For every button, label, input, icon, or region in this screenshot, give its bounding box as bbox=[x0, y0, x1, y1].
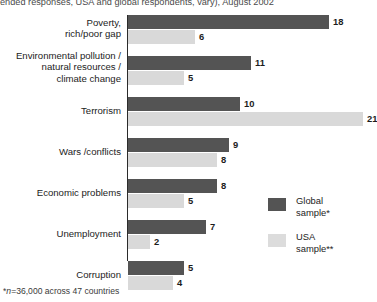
category-label-line1: Corruption bbox=[76, 269, 121, 280]
bar-row-usa: 6 bbox=[128, 30, 370, 44]
bar-row-usa: 5 bbox=[128, 71, 370, 85]
category-label-line2: rich/poor gap bbox=[65, 28, 121, 39]
chart-title: ended responses, USA and global responde… bbox=[0, 0, 370, 8]
category-label-line1: Unemployment bbox=[56, 228, 121, 239]
bar-value-global-corruption: 5 bbox=[188, 262, 193, 274]
bar-global-corruption[interactable] bbox=[128, 261, 184, 275]
bar-value-usa-environment: 5 bbox=[188, 72, 193, 84]
category-label-line1: Environmental pollution / bbox=[16, 50, 121, 61]
legend-label-global-line1: Global bbox=[296, 195, 323, 206]
bar-group-terrorism: Terrorism 10 21 bbox=[0, 97, 370, 129]
bar-row-usa: 4 bbox=[128, 276, 370, 290]
bar-value-usa-unemployment: 2 bbox=[154, 236, 159, 248]
category-label-poverty: Poverty, rich/poor gap bbox=[0, 17, 121, 40]
bar-row-global: 9 bbox=[128, 138, 370, 152]
category-label-line3: climate change bbox=[56, 73, 121, 84]
bar-global-economy[interactable] bbox=[128, 179, 217, 193]
category-label-terrorism: Terrorism bbox=[0, 105, 121, 116]
bar-global-poverty[interactable] bbox=[128, 15, 329, 29]
legend-item-global[interactable]: Global sample* bbox=[268, 196, 368, 224]
legend-label-global-line2: sample* bbox=[296, 207, 330, 218]
bar-row-global: 8 bbox=[128, 179, 370, 193]
bar-row-global: 11 bbox=[128, 56, 370, 70]
category-label-wars: Wars /conflicts bbox=[0, 146, 121, 157]
bar-value-global-terrorism: 10 bbox=[244, 98, 254, 110]
bar-value-global-poverty: 18 bbox=[333, 16, 343, 28]
bar-group-poverty: Poverty, rich/poor gap 18 6 bbox=[0, 15, 370, 47]
bar-usa-poverty[interactable] bbox=[128, 30, 195, 44]
bar-global-unemployment[interactable] bbox=[128, 220, 206, 234]
bar-value-global-wars: 9 bbox=[233, 139, 238, 151]
bar-global-terrorism[interactable] bbox=[128, 97, 240, 111]
bars-poverty: 18 6 bbox=[128, 15, 370, 45]
bar-row-usa: 8 bbox=[128, 153, 370, 167]
bar-usa-environment[interactable] bbox=[128, 71, 184, 85]
bar-usa-corruption[interactable] bbox=[128, 276, 173, 290]
chart-footnote: *n=36,000 across 47 countries bbox=[3, 286, 119, 297]
category-label-economy: Economic problems bbox=[0, 187, 121, 198]
bar-usa-unemployment[interactable] bbox=[128, 235, 150, 249]
legend-label-usa-line2: sample** bbox=[296, 243, 334, 254]
bar-usa-economy[interactable] bbox=[128, 194, 184, 208]
bars-environment: 11 5 bbox=[128, 56, 370, 86]
legend-swatch-global-icon bbox=[268, 198, 286, 211]
bars-wars: 9 8 bbox=[128, 138, 370, 168]
bar-row-usa: 21 bbox=[128, 112, 370, 126]
bar-value-usa-economy: 5 bbox=[188, 195, 193, 207]
bar-value-usa-corruption: 4 bbox=[177, 277, 182, 289]
category-label-line1: Economic problems bbox=[37, 187, 121, 198]
bar-value-global-economy: 8 bbox=[221, 180, 226, 192]
legend-label-usa: USA sample** bbox=[296, 231, 366, 254]
legend-item-usa[interactable]: USA sample** bbox=[268, 232, 368, 260]
bar-value-usa-poverty: 6 bbox=[199, 31, 204, 43]
bar-usa-wars[interactable] bbox=[128, 153, 217, 167]
category-label-corruption: Corruption bbox=[0, 269, 121, 280]
category-label-environment: Environmental pollution / natural resour… bbox=[0, 50, 121, 84]
category-label-line1: Terrorism bbox=[81, 105, 121, 116]
category-label-line2: natural resources / bbox=[42, 61, 121, 72]
bar-value-usa-wars: 8 bbox=[221, 154, 226, 166]
bar-global-wars[interactable] bbox=[128, 138, 229, 152]
footnote-rest: =36,000 across 47 countries bbox=[11, 286, 119, 296]
bar-value-global-environment: 11 bbox=[255, 57, 265, 69]
legend-label-usa-line1: USA bbox=[296, 231, 315, 242]
chart-legend: Global sample* USA sample** bbox=[268, 196, 368, 268]
bar-row-global: 18 bbox=[128, 15, 370, 29]
bar-group-environment: Environmental pollution / natural resour… bbox=[0, 56, 370, 88]
bar-group-wars: Wars /conflicts 9 8 bbox=[0, 138, 370, 170]
category-label-unemployment: Unemployment bbox=[0, 228, 121, 239]
legend-label-global: Global sample* bbox=[296, 195, 366, 218]
bar-value-usa-terrorism: 21 bbox=[367, 113, 377, 125]
bar-global-environment[interactable] bbox=[128, 56, 251, 70]
category-label-line1: Wars /conflicts bbox=[59, 146, 121, 157]
category-label-line1: Poverty, bbox=[87, 17, 121, 28]
bar-value-global-unemployment: 7 bbox=[210, 221, 215, 233]
legend-swatch-usa-icon bbox=[268, 234, 286, 247]
bar-usa-terrorism[interactable] bbox=[128, 112, 363, 126]
bars-terrorism: 10 21 bbox=[128, 97, 370, 127]
bar-row-global: 10 bbox=[128, 97, 370, 111]
